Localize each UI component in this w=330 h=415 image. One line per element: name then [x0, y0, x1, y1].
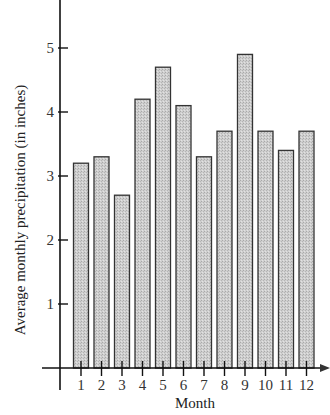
x-tick-label: 5: [159, 377, 167, 393]
y-tick-label: 5: [47, 40, 55, 56]
bar-month-7: [197, 157, 212, 368]
bar-month-3: [115, 195, 130, 368]
x-tick-label: 8: [221, 377, 229, 393]
bar-month-12: [299, 131, 314, 368]
bar-month-9: [238, 54, 253, 368]
bar-month-8: [217, 131, 232, 368]
bar-month-4: [135, 99, 150, 368]
bar-month-5: [156, 67, 171, 368]
x-axis-arrow-icon: [320, 364, 330, 372]
y-tick-label: 2: [47, 232, 55, 248]
x-tick-label: 1: [77, 377, 85, 393]
x-tick-label: 10: [258, 377, 273, 393]
bar-month-10: [258, 131, 273, 368]
bar-month-1: [74, 163, 89, 368]
bar-month-6: [176, 106, 191, 368]
x-tick-label: 12: [299, 377, 314, 393]
x-tick-label: 11: [279, 377, 293, 393]
x-tick-label: 2: [98, 377, 106, 393]
x-tick-label: 9: [241, 377, 249, 393]
x-tick-label: 6: [180, 377, 188, 393]
x-axis-label: Month: [0, 395, 330, 412]
bar-chart: 12345123456789101112: [0, 0, 330, 415]
y-tick-label: 3: [47, 168, 55, 184]
x-tick-label: 7: [200, 377, 208, 393]
y-tick-label: 4: [47, 104, 55, 120]
x-tick-label: 3: [118, 377, 126, 393]
x-tick-label: 4: [139, 377, 147, 393]
bars-group: [74, 54, 315, 368]
bar-month-2: [94, 157, 109, 368]
y-tick-label: 1: [47, 296, 55, 312]
bar-month-11: [279, 150, 294, 368]
